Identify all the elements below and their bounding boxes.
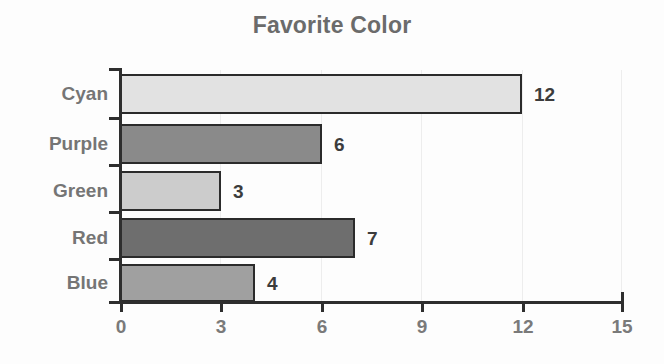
y-tick-3 <box>109 211 121 214</box>
x-tick-9 <box>421 301 424 312</box>
value-label-purple: 6 <box>334 134 345 156</box>
category-label-cyan: Cyan <box>0 83 108 105</box>
bar-blue[interactable] <box>120 264 255 302</box>
gridline-12 <box>522 70 523 302</box>
x-tick-label-15: 15 <box>600 316 644 338</box>
category-label-purple: Purple <box>0 133 108 155</box>
x-tick-label-6: 6 <box>300 316 344 338</box>
value-label-blue: 4 <box>267 273 278 295</box>
category-label-blue: Blue <box>0 272 108 294</box>
bar-purple[interactable] <box>120 124 322 164</box>
gridline-15 <box>621 70 622 302</box>
chart-title: Favorite Color <box>0 12 664 39</box>
y-tick-4 <box>109 258 121 261</box>
y-tick-2 <box>109 164 121 167</box>
category-label-green: Green <box>0 180 108 202</box>
y-tick-0 <box>109 68 121 71</box>
x-tick-label-9: 9 <box>400 316 444 338</box>
y-tick-1 <box>109 117 121 120</box>
category-label-red: Red <box>0 227 108 249</box>
value-label-cyan: 12 <box>534 84 555 106</box>
x-tick-0 <box>120 301 123 312</box>
bar-cyan[interactable] <box>120 74 522 114</box>
bar-red[interactable] <box>120 218 355 258</box>
x-tick-15 <box>621 301 624 312</box>
value-label-green: 3 <box>233 181 244 203</box>
x-tick-label-12: 12 <box>501 316 545 338</box>
bar-green[interactable] <box>120 171 221 211</box>
y-axis-line <box>119 68 122 304</box>
value-label-red: 7 <box>367 228 378 250</box>
x-tick-label-0: 0 <box>99 316 143 338</box>
x-tick-3 <box>220 301 223 312</box>
bar-chart: Favorite Color 12 6 3 7 4 Cyan Purple Gr… <box>0 0 664 364</box>
x-tick-12 <box>522 301 525 312</box>
x-tick-label-3: 3 <box>199 316 243 338</box>
x-tick-6 <box>321 301 324 312</box>
x-axis-line <box>119 301 624 304</box>
